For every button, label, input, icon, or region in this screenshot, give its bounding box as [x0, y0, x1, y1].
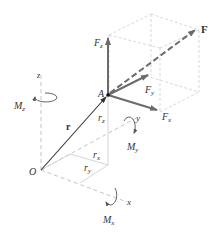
force-component-box — [109, 14, 199, 112]
label-my: My — [126, 141, 139, 154]
moment-mz-curl — [35, 93, 57, 102]
force-vector-fy — [108, 75, 148, 95]
label-axis-y: y — [135, 113, 140, 123]
point-a — [106, 93, 110, 97]
force-vector-f — [110, 30, 195, 93]
label-rz: rz — [98, 112, 105, 125]
coordinate-axes — [41, 72, 136, 202]
label-fx: Fx — [161, 111, 172, 124]
label-fz: Fz — [93, 37, 103, 50]
label-axis-z: z — [36, 71, 41, 80]
label-fy: Fy — [144, 84, 155, 97]
moment-my-curl — [124, 117, 135, 133]
x-axis-line — [41, 170, 127, 202]
label-axis-x: x — [126, 197, 131, 207]
force-components — [108, 38, 157, 110]
label-r: r — [66, 121, 71, 132]
label-f: F — [201, 23, 208, 35]
label-origin-o: O — [29, 166, 36, 177]
label-rx: rx — [93, 149, 101, 162]
label-mz: Mz — [13, 100, 25, 113]
moment-mx-curl — [106, 188, 117, 205]
moment-components-diagram: F Fz Fy Fx A O r rz rx ry Mz My Mx z y x — [0, 0, 213, 233]
label-mx: Mx — [102, 214, 115, 227]
label-ry: ry — [84, 162, 92, 175]
force-vector-fx — [108, 95, 157, 110]
label-point-a: A — [97, 88, 105, 99]
